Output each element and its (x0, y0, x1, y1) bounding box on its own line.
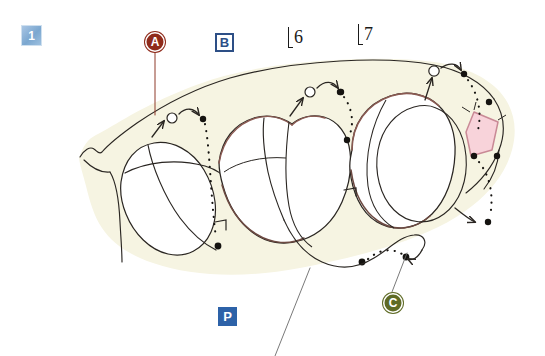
step-number-badge[interactable]: 1 (22, 26, 41, 45)
figure-root: 1 A B 6 7 P C (0, 0, 545, 356)
filled-dot (200, 116, 206, 122)
label-badge-c[interactable]: C (383, 293, 403, 313)
callout-number-6[interactable]: 6 (288, 27, 303, 48)
dotted-path (368, 250, 402, 259)
label-badge-b[interactable]: B (215, 33, 234, 52)
open-circle (305, 87, 315, 97)
filled-dot (461, 71, 467, 77)
leader-line-c (392, 253, 407, 292)
filled-dot (215, 243, 222, 250)
open-circle (167, 113, 177, 123)
filled-dot (486, 99, 492, 105)
open-circle (429, 66, 439, 76)
leader-line-p (275, 268, 310, 356)
label-badge-a[interactable]: A (145, 32, 165, 52)
curved-arrow (408, 250, 422, 260)
filled-dot (485, 219, 491, 225)
callout-number-7[interactable]: 7 (358, 24, 373, 45)
label-badge-p[interactable]: P (218, 307, 237, 326)
filled-dot (494, 153, 500, 159)
filled-dot (344, 137, 350, 143)
figure-canvas (0, 0, 545, 356)
filled-dot (471, 153, 477, 159)
